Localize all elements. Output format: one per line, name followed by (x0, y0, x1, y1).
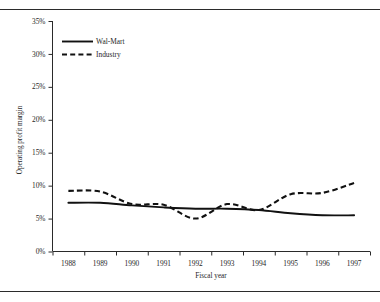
x-tick-label: 1991 (156, 259, 171, 268)
y-tick-label: 5% (36, 214, 46, 223)
figure-page: Operating profit margin 0%5%10%15%20%25%… (0, 0, 380, 302)
series-line-walmart (68, 203, 354, 216)
x-tick-label: 1990 (124, 259, 139, 268)
y-tick-label: 35% (32, 17, 46, 26)
x-tick-label: 1993 (220, 259, 235, 268)
page-rule-bottom (0, 291, 380, 292)
y-axis-title: Operating profit margin (16, 105, 24, 174)
x-tick-label: 1995 (283, 259, 298, 268)
legend-label-industry: Industry (96, 50, 121, 59)
line-chart: Operating profit margin 0%5%10%15%20%25%… (0, 10, 380, 282)
y-axis-ticks: 0%5%10%15%20%25%30%35% (32, 17, 53, 257)
chart-legend: Wal-Mart Industry (62, 37, 125, 59)
y-tick-label: 20% (32, 115, 46, 124)
series-line-industry (68, 183, 354, 219)
y-tick-label: 15% (32, 148, 46, 157)
y-tick-label: 25% (32, 82, 46, 91)
x-axis-title: Fiscal year (195, 272, 227, 280)
x-tick-label: 1989 (93, 259, 108, 268)
x-tick-label: 1997 (347, 259, 362, 268)
x-tick-label: 1996 (315, 259, 330, 268)
chart-figure: Operating profit margin 0%5%10%15%20%25%… (0, 10, 380, 291)
y-tick-label: 0% (36, 247, 46, 256)
x-tick-label: 1992 (188, 259, 203, 268)
x-tick-label: 1994 (251, 259, 266, 268)
x-tick-label: 1988 (61, 259, 76, 268)
y-tick-label: 30% (32, 50, 46, 59)
x-axis-ticks: 1988198919901991199219931994199519961997 (53, 252, 371, 268)
y-tick-label: 10% (32, 181, 46, 190)
legend-label-walmart: Wal-Mart (96, 37, 125, 46)
